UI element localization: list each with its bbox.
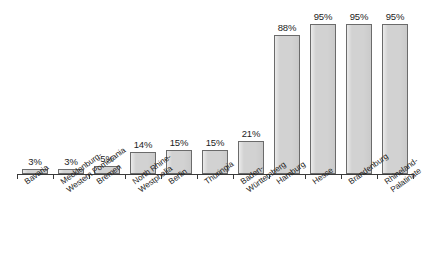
bar-column[interactable]: 21% bbox=[238, 8, 264, 174]
bar-group: 88% bbox=[269, 8, 305, 174]
bar-column[interactable]: 3% bbox=[22, 8, 48, 174]
bar-column[interactable]: 3% bbox=[58, 8, 84, 174]
axis-tick bbox=[197, 174, 198, 179]
bar-value-label: 21% bbox=[242, 128, 260, 139]
bar-value-label: 88% bbox=[278, 22, 296, 33]
bar-group: 95% bbox=[305, 8, 341, 174]
bar-group: 14% bbox=[125, 8, 161, 174]
category-labels: BavariaMecklenburg-Western PomeraniaBrem… bbox=[0, 174, 429, 257]
bar-value-label: 95% bbox=[314, 11, 332, 22]
axis-tick bbox=[377, 174, 378, 179]
axis-tick bbox=[89, 174, 90, 179]
bar-column[interactable]: 14% bbox=[130, 8, 156, 174]
bar-value-label: 95% bbox=[350, 11, 368, 22]
axis-tick bbox=[233, 174, 234, 179]
bar-group: 15% bbox=[161, 8, 197, 174]
bar-chart: 3%3%5%14%15%15%21%88%95%95%95% BavariaMe… bbox=[0, 0, 429, 257]
bar-rect[interactable] bbox=[310, 24, 336, 174]
axis-tick bbox=[17, 174, 18, 179]
bar-column[interactable]: 95% bbox=[346, 8, 372, 174]
axis-tick bbox=[53, 174, 54, 179]
bar-group: 95% bbox=[341, 8, 377, 174]
bar-column[interactable]: 88% bbox=[274, 8, 300, 174]
bar-column[interactable]: 15% bbox=[202, 8, 228, 174]
bar-value-label: 95% bbox=[386, 11, 404, 22]
bar-group: 3% bbox=[53, 8, 89, 174]
bar-value-label: 15% bbox=[206, 137, 224, 148]
bar-rect[interactable] bbox=[346, 24, 372, 174]
bar-group: 3% bbox=[17, 8, 53, 174]
bar-group: 95% bbox=[377, 8, 413, 174]
bar-value-label: 15% bbox=[170, 137, 188, 148]
axis-tick bbox=[125, 174, 126, 179]
bar-rect[interactable] bbox=[382, 24, 408, 174]
axis-tick bbox=[341, 174, 342, 179]
bar-group: 21% bbox=[233, 8, 269, 174]
axis-tick bbox=[305, 174, 306, 179]
bar-group: 15% bbox=[197, 8, 233, 174]
plot-area: 3%3%5%14%15%15%21%88%95%95%95% bbox=[17, 8, 413, 174]
bar-column[interactable]: 95% bbox=[310, 8, 336, 174]
axis-tick bbox=[413, 174, 414, 179]
axis-tick bbox=[269, 174, 270, 179]
bar-column[interactable]: 95% bbox=[382, 8, 408, 174]
bar-column[interactable]: 15% bbox=[166, 8, 192, 174]
bar-value-label: 14% bbox=[134, 139, 152, 150]
axis-tick bbox=[161, 174, 162, 179]
